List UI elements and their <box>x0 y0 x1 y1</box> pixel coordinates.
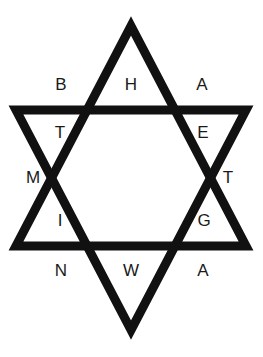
hexagram-figure: B H A T E M T I G N W A <box>0 0 263 357</box>
letter-g: G <box>193 212 215 229</box>
letter-h: H <box>120 76 142 93</box>
letter-m: M <box>22 169 44 186</box>
letter-b: B <box>50 76 72 93</box>
letter-i: I <box>49 212 71 229</box>
letter-t-upper-left: T <box>49 124 71 141</box>
letter-w: W <box>120 262 142 279</box>
letter-t-right-point: T <box>217 169 239 186</box>
letter-e: E <box>192 124 214 141</box>
letter-a-upper-right: A <box>191 76 213 93</box>
letter-a-lower-right: A <box>192 262 214 279</box>
letter-n: N <box>50 262 72 279</box>
